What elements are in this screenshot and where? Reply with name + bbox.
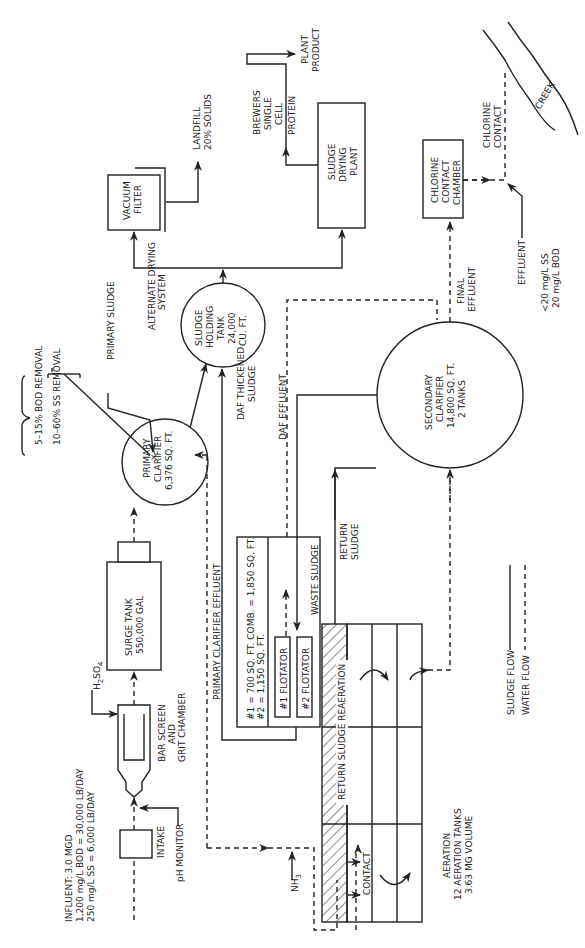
ph-monitor-line (140, 808, 178, 826)
svg-text:GRIT CHAMBER: GRIT CHAMBER (177, 693, 187, 762)
surge-tank-cap (118, 542, 150, 562)
svg-text:AND: AND (167, 724, 177, 744)
aeration-tanks-grid (347, 624, 422, 922)
effluent-line (508, 184, 522, 238)
svg-text:CONTACT: CONTACT (441, 160, 451, 203)
svg-text:CHAMBER: CHAMBER (452, 160, 462, 205)
return-sludge-reaeration-label: RETURN SLUDGE REAERATION (337, 664, 347, 800)
mixing-arrow-icon (360, 670, 388, 680)
svg-text:CONTACT: CONTACT (493, 105, 503, 148)
svg-text:1,200 mg/L BOD = 30,000 LB/DAY: 1,200 mg/L BOD = 30,000 LB/DAY (75, 768, 85, 922)
process-flow-diagram: INFLUENT: 3.0 MGD 1,200 mg/L BOD = 30,00… (0, 0, 585, 948)
svg-text:EFFLUENT: EFFLUENT (467, 266, 477, 312)
vacuum-filter-label: VACUUM FILTER (122, 181, 143, 220)
brewers-label: BREWERS SINGLE CELL PROTEIN (252, 90, 297, 135)
svg-text:CU. FT.: CU. FT. (238, 315, 248, 346)
svg-text:HOLDING: HOLDING (205, 306, 215, 348)
drying-to-protein-line (286, 148, 318, 165)
svg-text:ALTERNATE DRYING: ALTERNATE DRYING (147, 242, 157, 330)
vacuum-to-landfill-line (166, 162, 198, 202)
creek-label: CREEK (533, 79, 557, 111)
svg-text:20 mg/L BOD: 20 mg/L BOD (551, 248, 561, 308)
flotator-2-label: #2 FLOTATOR (301, 648, 311, 710)
svg-text:CHLORINE: CHLORINE (430, 157, 440, 203)
contact-label: CONTACT (362, 852, 372, 895)
svg-text:SECONDARY: SECONDARY (424, 374, 434, 430)
removal-brace (22, 376, 30, 455)
svg-text:RETURN: RETURN (339, 523, 349, 560)
svg-text:SLUDGE: SLUDGE (247, 365, 257, 402)
svg-text:INFLUENT: 3.0 MGD: INFLUENT: 3.0 MGD (64, 835, 74, 922)
landfill-label: LANDFILL 20% SOLIDS (192, 94, 213, 150)
removal-pointer-line (64, 374, 150, 455)
waste-sludge-label: WASTE SLUDGE (310, 544, 320, 615)
intake-label: INTAKE (156, 826, 166, 858)
svg-text:10–60% SS REMOVAL: 10–60% SS REMOVAL (52, 349, 62, 446)
svg-text:DAF THICKENED: DAF THICKENED (236, 347, 246, 420)
svg-text:SURGE TANK: SURGE TANK (124, 597, 134, 656)
bar-screen-grit-chamber (118, 705, 150, 797)
svg-text:CELL: CELL (274, 103, 284, 125)
svg-text:PRODUCT: PRODUCT (311, 27, 321, 72)
svg-text:<20 mg/L SS: <20 mg/L SS (540, 253, 550, 312)
primary-clarifier-effluent-label: PRIMARY CLARIFIER EFFLUENT (212, 563, 222, 700)
svg-text:PLANT: PLANT (300, 34, 310, 64)
sludge-drying-plant-label: SLUDGE DRYING PLANT (327, 143, 359, 182)
svg-text:PROTEIN: PROTEIN (287, 96, 297, 135)
svg-text:TANK: TANK (216, 315, 226, 341)
aeration-to-secondary-flow (428, 470, 450, 670)
svg-text:CLARIFIER: CLARIFIER (435, 376, 445, 422)
influent-note: INFLUENT: 3.0 MGD 1,200 mg/L BOD = 30,00… (64, 768, 96, 922)
svg-text:FILTER: FILTER (133, 185, 143, 214)
svg-text:250 mg/L SS = 6,000 LB/DAY: 250 mg/L SS = 6,000 LB/DAY (86, 791, 96, 922)
bar-screen-label: BAR SCREEN AND GRIT CHAMBER (157, 693, 187, 762)
svg-text:BREWERS: BREWERS (252, 90, 262, 135)
alternate-drying-label: ALTERNATE DRYING SYSTEM (147, 242, 167, 330)
primary-sludge-label: PRIMARY SLUDGE (106, 281, 116, 360)
return-sludge-label: RETURN SLUDGE (339, 523, 360, 560)
svg-text:6,376 SQ. FT.: 6,376 SQ. FT. (164, 431, 174, 490)
svg-text:PLANT: PLANT (349, 146, 359, 176)
svg-text:550,000 GAL: 550,000 GAL (135, 596, 145, 654)
svg-text:SLUDGE: SLUDGE (194, 309, 204, 346)
svg-text:FINAL: FINAL (456, 278, 466, 304)
svg-text:SINGLE: SINGLE (263, 97, 273, 130)
aeration-outflow-arrow-icon (410, 670, 428, 680)
svg-text:#2 = 1,150 SQ. FT.: #2 = 1,150 SQ. FT. (256, 634, 266, 720)
intake-box (120, 830, 152, 858)
plant-product-label: PLANT PRODUCT (300, 27, 321, 72)
legend-water-label: WATER FLOW (521, 655, 531, 715)
svg-text:14,800 SQ. FT.: 14,800 SQ. FT. (446, 363, 456, 428)
svg-text:12 AERATION TANKS: 12 AERATION TANKS (453, 808, 463, 900)
chlorine-chamber-label: CHLORINE CONTACT CHAMBER (430, 157, 462, 205)
flotator-1-label: #1 FLOTATOR (279, 648, 289, 710)
svg-text:BAR SCREEN: BAR SCREEN (157, 704, 167, 762)
ph-monitor-label: pH MONITOR (175, 824, 185, 882)
effluent-label: EFFLUENT (517, 239, 527, 285)
primary-clarifier-x-mark: × (150, 452, 158, 462)
removal-notes: 5–15% BOD REMOVAL 10–60% SS REMOVAL (34, 346, 62, 445)
svg-text:SYSTEM: SYSTEM (157, 274, 167, 310)
final-effluent-label: FINAL EFFLUENT (456, 266, 477, 312)
aeration-label: AERATION 12 AERATION TANKS 3.63 MG VOLUM… (442, 808, 474, 900)
svg-text:LANDFILL: LANDFILL (192, 107, 202, 150)
h2so4-label: H2SO4 (92, 661, 105, 690)
svg-text:DRYING: DRYING (338, 148, 348, 182)
svg-text:SLUDGE: SLUDGE (327, 143, 337, 180)
surge-tank-label: SURGE TANK 550,000 GAL (124, 596, 145, 656)
svg-text:3.63 MG VOLUME: 3.63 MG VOLUME (464, 815, 474, 894)
primary-to-holding-line (190, 364, 206, 428)
svg-text:2 TANKS: 2 TANKS (457, 380, 467, 418)
h2so4-line (92, 690, 117, 714)
effluent-quality-label: <20 mg/L SS 20 mg/L BOD (540, 248, 561, 312)
svg-text:5–15% BOD REMOVAL: 5–15% BOD REMOVAL (34, 346, 44, 445)
svg-text:AERATION: AERATION (442, 833, 452, 878)
legend-sludge-label: SLUDGE FLOW (506, 650, 516, 715)
mixing-arrow-icon (380, 873, 410, 885)
chlorine-contact-label: CHLORINE CONTACT (482, 102, 503, 148)
svg-text:#1 = 700 SQ. FT. COMB. = 1,85: #1 = 700 SQ. FT. COMB. = 1,850 SQ. FT. (246, 537, 256, 720)
svg-text:24,000: 24,000 (227, 312, 237, 344)
svg-text:CHLORINE: CHLORINE (482, 102, 492, 148)
daf-effluent-label: DAF EFFLUENT (278, 373, 288, 440)
holding-to-drying-plant-line (160, 230, 342, 268)
